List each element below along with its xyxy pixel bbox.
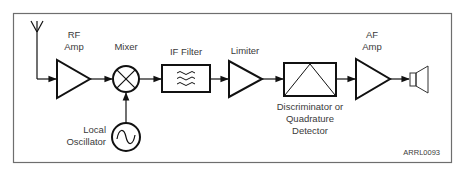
discriminator-label-line3: Detector [292, 125, 328, 136]
limiter-label: Limiter [231, 45, 260, 56]
local-oscillator-label-line1: Local [83, 124, 106, 135]
mixer-label: Mixer [114, 41, 137, 52]
discriminator-icon [284, 63, 336, 96]
af-amp-label-line1: AF [366, 29, 378, 40]
if-filter-icon [162, 65, 210, 92]
discriminator-label-line2: Quadrature [286, 113, 334, 124]
rf-amp-label-line1: RF [68, 29, 81, 40]
limiter-triangle-icon [229, 61, 262, 97]
if-filter-label: IF Filter [170, 46, 202, 57]
local-oscillator-icon [112, 123, 140, 151]
af-amp-triangle-icon [356, 59, 390, 99]
antenna-icon [31, 21, 43, 79]
mixer-icon [113, 66, 139, 92]
fm-receiver-diagram: RF Amp Mixer Local Oscillator IF Filter … [0, 0, 465, 173]
rf-amp-label-line2: Amp [64, 41, 84, 52]
rf-amp-triangle-icon [57, 60, 90, 98]
figure-id-label: ARRL0093 [403, 148, 440, 157]
af-amp-label-line2: Amp [362, 41, 382, 52]
discriminator-label-line1: Discriminator or [277, 101, 344, 112]
speaker-icon [410, 66, 428, 93]
local-oscillator-label-line2: Oscillator [66, 136, 106, 147]
